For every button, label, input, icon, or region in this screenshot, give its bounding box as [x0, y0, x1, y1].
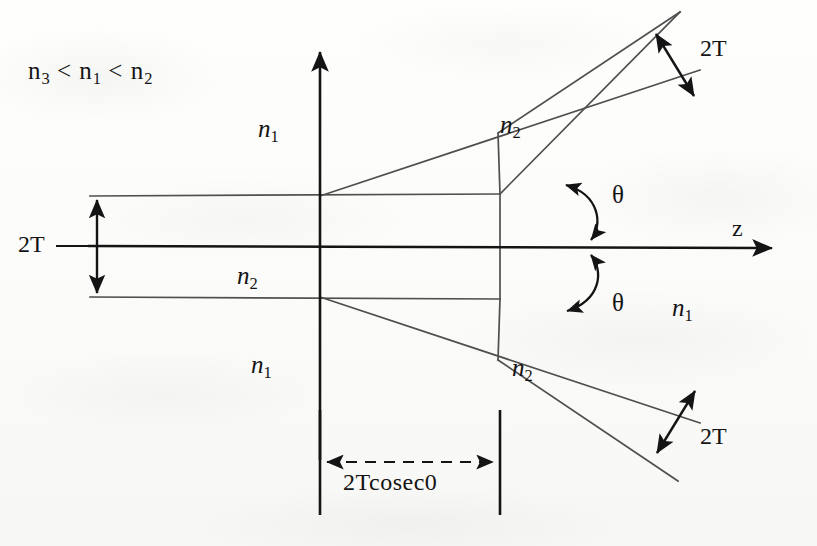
lower-branch-thickness-dimension [657, 391, 695, 453]
lower-branch-upper-edge [320, 297, 700, 423]
upper-branch-outer-edge [498, 12, 680, 133]
axes [88, 52, 772, 460]
slab-bottom-wall [90, 297, 500, 299]
region-label-n2-upper-branch: n2 [500, 112, 521, 141]
lower-branch-inner-face [498, 299, 500, 360]
theta-lower-arc [567, 255, 598, 311]
thickness-label-upper-branch: 2T [700, 36, 727, 60]
figure-canvas: n3 < n1 < n2 n1 n2 n2 n1 n2 n1 2T 2T 2T … [0, 0, 817, 546]
taper-length-label: 2Tcosec0 [343, 470, 437, 494]
slab-top-wall [90, 194, 500, 196]
inequality-operator-1: < [57, 57, 72, 84]
branch-inner-faces [498, 133, 500, 194]
angle-label-theta-upper: θ [612, 182, 624, 207]
upper-branch-upper-edge [500, 12, 680, 194]
thickness-label-left: 2T [18, 232, 45, 256]
refractive-index-inequality: n3 < n1 < n2 [28, 58, 152, 87]
inequality-n2: n2 [131, 57, 153, 84]
region-label-n2-lower-branch: n2 [512, 355, 533, 384]
upper-branch-thickness-arrow [656, 34, 694, 96]
taper-length-dimension [320, 410, 500, 515]
lower-branch-thickness-arrow [657, 391, 695, 453]
region-label-n2-slab: n2 [237, 263, 258, 292]
axis-label-z: z [732, 216, 743, 240]
angle-label-theta-lower: θ [612, 290, 624, 315]
inequality-n1: n1 [79, 57, 101, 84]
inequality-n3: n3 [28, 57, 50, 84]
upper-branch-thickness-dimension [656, 34, 694, 96]
region-label-n1-bottom: n1 [251, 352, 272, 381]
thickness-label-lower-branch: 2T [700, 424, 727, 448]
upper-branch-inner-face [498, 133, 500, 194]
region-label-n1-top: n1 [258, 116, 279, 145]
region-label-n1-right: n1 [672, 295, 693, 324]
left-thickness-dimension [56, 200, 97, 293]
z-axis [88, 246, 772, 248]
theta-upper-arc [566, 185, 597, 240]
inequality-operator-2: < [108, 57, 123, 84]
